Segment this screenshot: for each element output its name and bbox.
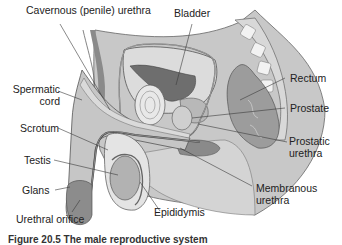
label-epididymis: Epididymis [154,206,205,218]
figure-caption: Figure 20.5 The male reproductive system [8,234,208,245]
label-glans: Glans [22,184,49,196]
label-prostatic-urethra-line1: Prostatic [289,135,330,147]
label-spermatic-cord: Spermatic cord [10,83,60,107]
label-prostatic-urethra-line2: urethra [289,147,330,159]
label-rectum: Rectum [290,72,326,84]
label-spermatic-cord-line2: cord [10,95,60,107]
label-urethral-orifice: Urethral orifice [16,213,84,225]
label-prostatic-urethra: Prostatic urethra [289,135,330,159]
label-membranous-urethra-line1: Membranous [256,182,317,194]
label-membranous-urethra: Membranous urethra [256,182,317,206]
label-prostate: Prostate [290,102,329,114]
label-spermatic-cord-line1: Spermatic [10,83,60,95]
label-scrotum: Scrotum [20,122,59,134]
label-bladder: Bladder [174,7,210,19]
testis [110,156,140,200]
prostate [172,106,192,130]
label-cavernous-urethra: Cavernous (penile) urethra [26,4,151,16]
label-testis: Testis [24,154,51,166]
label-membranous-urethra-line2: urethra [256,194,317,206]
